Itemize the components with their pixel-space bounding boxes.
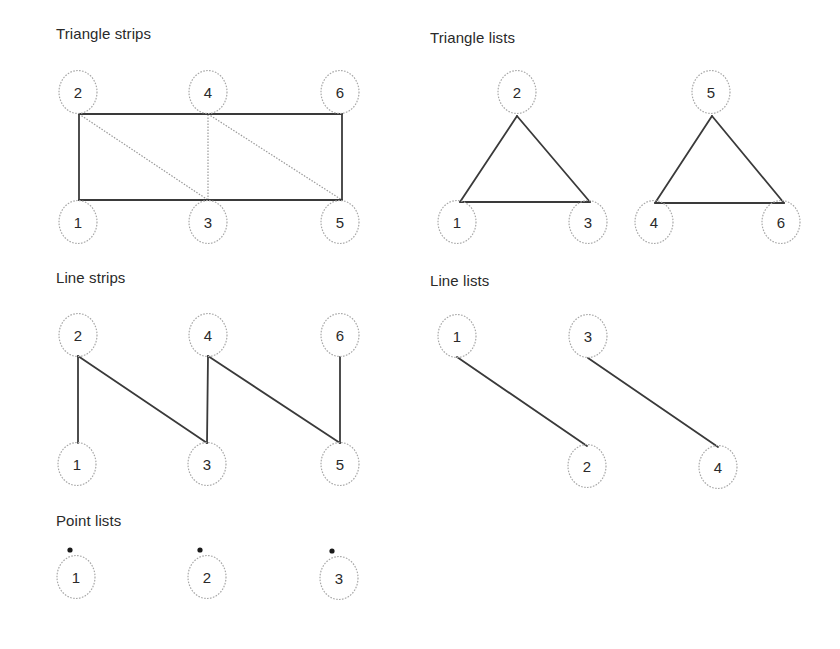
vertex-6: 6 [321, 314, 359, 357]
vertex-label: 3 [584, 328, 592, 345]
vertex-3: 3 [189, 201, 227, 244]
vertex-3: 3 [569, 315, 607, 358]
vertex-1: 1 [59, 201, 97, 244]
vertex-label: 4 [204, 327, 212, 344]
vertex-label: 1 [74, 214, 82, 231]
vertex-label: 2 [513, 84, 521, 101]
edge [460, 116, 517, 202]
vertex-1: 1 [438, 201, 476, 244]
vertex-label: 2 [583, 458, 591, 475]
vertex-4: 4 [189, 314, 227, 357]
dotted-edge [79, 114, 208, 200]
edge [712, 116, 784, 203]
vertex-label: 3 [203, 456, 211, 473]
vertex-label: 6 [336, 84, 344, 101]
vertex-3: 3 [320, 548, 358, 599]
vertex-label: 1 [453, 328, 461, 345]
vertex-label: 5 [707, 84, 715, 101]
edge [517, 116, 590, 202]
vertex-2: 2 [568, 445, 606, 488]
vertex-2: 2 [188, 547, 226, 598]
vertex-label: 5 [336, 214, 344, 231]
vertex-1: 1 [438, 315, 476, 358]
vertex-2: 2 [498, 71, 536, 114]
edge [655, 116, 712, 203]
vertex-label: 4 [204, 84, 212, 101]
edge [208, 356, 340, 443]
vertex-5: 5 [692, 71, 730, 114]
point-dot [197, 547, 202, 552]
vertex-3: 3 [569, 201, 607, 244]
vertex-label: 2 [74, 327, 82, 344]
point-lists-diagram: 123 [57, 547, 358, 599]
vertex-6: 6 [762, 201, 800, 244]
vertex-label: 4 [650, 214, 658, 231]
edge [457, 357, 587, 446]
vertex-2: 2 [59, 314, 97, 357]
vertex-label: 5 [336, 456, 344, 473]
vertex-1: 1 [58, 443, 96, 486]
edge [207, 356, 208, 443]
vertex-label: 4 [714, 459, 722, 476]
vertex-label: 3 [204, 214, 212, 231]
vertex-2: 2 [59, 71, 97, 114]
primitive-topology-diagram: 123456 123456 123456 1234 123 [0, 0, 840, 649]
edge [78, 356, 207, 443]
vertex-label: 3 [335, 570, 343, 587]
vertex-5: 5 [321, 443, 359, 486]
vertex-4: 4 [635, 201, 673, 244]
point-dot [67, 547, 72, 552]
edge [588, 358, 718, 447]
vertex-label: 3 [584, 214, 592, 231]
vertex-5: 5 [321, 201, 359, 244]
vertex-4: 4 [699, 446, 737, 489]
triangle-lists-diagram: 123456 [438, 71, 800, 244]
vertex-3: 3 [188, 443, 226, 486]
vertex-label: 1 [72, 569, 80, 586]
vertex-label: 1 [453, 214, 461, 231]
vertex-1: 1 [57, 547, 95, 598]
line-strips-diagram: 123456 [58, 314, 359, 486]
dotted-edge [208, 114, 342, 200]
line-lists-diagram: 1234 [438, 315, 737, 489]
vertex-label: 2 [203, 569, 211, 586]
vertex-6: 6 [321, 71, 359, 114]
vertex-4: 4 [189, 71, 227, 114]
vertex-label: 2 [74, 84, 82, 101]
point-dot [329, 548, 334, 553]
vertex-label: 6 [336, 327, 344, 344]
triangle-strips-diagram: 123456 [59, 71, 359, 244]
vertex-label: 1 [73, 456, 81, 473]
vertex-label: 6 [777, 214, 785, 231]
